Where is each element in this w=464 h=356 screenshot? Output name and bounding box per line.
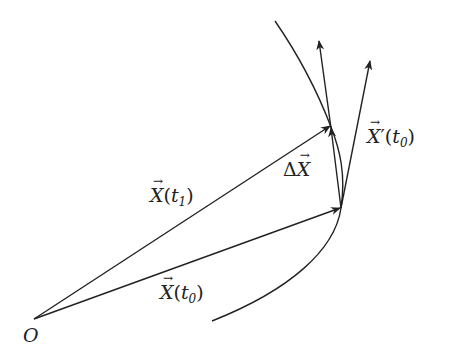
label-delta-x: ΔX [283, 160, 310, 179]
origin-label: O [23, 326, 39, 345]
curve-path [212, 21, 343, 321]
tangent-vector-x-prime [341, 61, 370, 208]
secant-arrow [319, 41, 331, 128]
label-x-t1: X(t1) [150, 186, 194, 208]
diagram-svg [0, 0, 464, 356]
label-x-t0: X(t0) [160, 283, 204, 305]
diagram-canvas: O X(t1) X(t0) ΔX X′(t0) [0, 0, 464, 356]
label-x-prime-t0: X′(t0) [367, 127, 415, 149]
